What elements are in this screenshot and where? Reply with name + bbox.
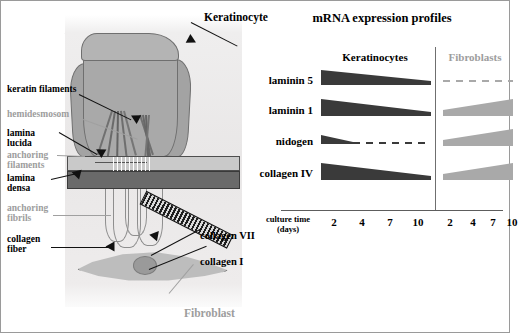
label-anchoring-filaments-line2: filaments — [7, 160, 44, 170]
bar-fibroblasts-laminin-5 — [443, 80, 513, 82]
fibroblast-nucleus — [133, 256, 157, 275]
label-anchoring-filaments-line1: anchoring — [7, 150, 48, 160]
bar-keratinocytes-laminin-1 — [321, 99, 431, 116]
label-collagen-fiber-line1: collagen — [7, 234, 40, 244]
bar-keratinocytes-collagen-iv — [321, 163, 431, 180]
label-lamina-lucida-line1: lamina — [7, 128, 35, 138]
anchoring-filament — [129, 157, 130, 171]
label-lamina-densa-line1: lamina — [7, 173, 35, 183]
tick-keratinocytes-4: 4 — [353, 216, 371, 228]
bar-fibroblasts-laminin-1 — [443, 99, 513, 116]
chart-title: mRNA expression profiles — [259, 11, 505, 26]
bar-keratinocytes-laminin-5 — [321, 70, 431, 85]
anchoring-filament — [121, 157, 122, 171]
axis-label-line1: culture time — [266, 214, 310, 224]
label-lamina-densa-line2: densa — [7, 183, 30, 193]
label-keratin-filaments: keratin filaments — [7, 85, 76, 95]
tick-fibroblasts-10: 10 — [503, 216, 521, 228]
label-anchoring-fibrils: anchoring fibrils — [7, 204, 48, 223]
mrna-expression-chart: mRNA expression profiles Keratinocytes F… — [259, 7, 505, 235]
label-anchoring-filaments: anchoring filaments — [7, 151, 48, 170]
axis-label-line2: (days) — [277, 224, 299, 234]
bar-keratinocytes-nidogen-dashed — [353, 142, 431, 144]
anchoring-filament — [141, 157, 142, 171]
column-header-keratinocytes: Keratinocytes — [321, 51, 429, 63]
keratinocyte-apical-flap — [81, 33, 179, 61]
anchoring-filament — [133, 157, 134, 171]
arrow-collagen-fiber — [106, 242, 115, 252]
axis-label-culture-time: culture time (days) — [255, 215, 321, 234]
tick-keratinocytes-7: 7 — [381, 216, 399, 228]
bar-fibroblasts-collagen-iv — [443, 163, 513, 180]
label-lamina-lucida: lamina lucida — [7, 129, 35, 148]
anchoring-filament — [145, 157, 146, 171]
leader-anchoring-fibrils — [53, 215, 111, 216]
row-label-collagen-iv: collagen IV — [217, 167, 313, 179]
label-lamina-lucida-line2: lucida — [7, 138, 32, 148]
chart-axis-line — [281, 210, 503, 211]
row-label-nidogen: nidogen — [217, 135, 313, 147]
anchoring-filament — [137, 157, 138, 171]
lamina-densa-layer — [67, 171, 240, 189]
bar-fibroblasts-nidogen — [443, 129, 513, 146]
label-collagen-vii: collagen VII — [200, 231, 255, 242]
bar-keratinocytes-nidogen — [321, 135, 353, 144]
column-divider — [435, 47, 436, 210]
label-anchoring-fibrils-line2: fibrils — [7, 213, 31, 223]
label-collagen-fiber: collagen fiber — [7, 235, 40, 254]
tick-keratinocytes-10: 10 — [409, 216, 427, 228]
row-label-laminin-5: laminin 5 — [217, 74, 313, 86]
tick-fibroblasts-7: 7 — [484, 216, 502, 228]
tick-keratinocytes-2: 2 — [325, 216, 343, 228]
label-hemidesmosome: hemidesmosom — [7, 110, 69, 120]
anchoring-filament — [113, 157, 114, 171]
label-anchoring-fibrils-line1: anchoring — [7, 203, 48, 213]
anchoring-filament — [117, 157, 118, 171]
row-label-laminin-1: laminin 1 — [217, 104, 313, 116]
anchoring-filament — [149, 157, 150, 171]
tick-fibroblasts-4: 4 — [464, 216, 482, 228]
label-collagen-i: collagen I — [200, 257, 243, 268]
lamina-lucida-layer — [67, 156, 240, 171]
tick-fibroblasts-2: 2 — [441, 216, 459, 228]
anchoring-filament — [125, 157, 126, 171]
label-lamina-densa: lamina densa — [7, 174, 35, 193]
leader-collagen-fiber — [51, 247, 109, 248]
label-collagen-fiber-line2: fiber — [7, 244, 27, 254]
column-header-fibroblasts: Fibroblasts — [437, 51, 513, 63]
label-fibroblast: Fibroblast — [184, 308, 235, 320]
